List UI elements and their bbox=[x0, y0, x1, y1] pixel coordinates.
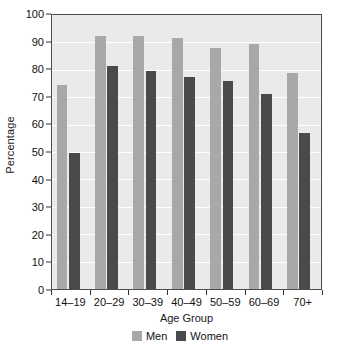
y-tick-label: 10 bbox=[32, 256, 44, 268]
x-tick-mark bbox=[51, 290, 52, 295]
bar-group bbox=[244, 15, 282, 289]
y-axis-title-label: Percentage bbox=[4, 116, 16, 173]
x-axis-tick-marks bbox=[51, 290, 322, 295]
x-tick-label: 60–69 bbox=[245, 296, 284, 312]
bar-women-14-19 bbox=[69, 153, 80, 289]
x-tick-mark bbox=[128, 290, 129, 295]
x-axis-title: Age Group bbox=[51, 312, 322, 324]
bar-women-20-29 bbox=[107, 66, 118, 289]
y-tick-label: 80 bbox=[32, 63, 44, 75]
legend-label: Men bbox=[146, 330, 167, 342]
legend-swatch-women bbox=[176, 331, 186, 341]
chart-legend: MenWomen bbox=[0, 330, 360, 342]
y-tick-label: 90 bbox=[32, 36, 44, 48]
x-tick-label: 40–49 bbox=[167, 296, 206, 312]
bar-men-60-69 bbox=[249, 44, 260, 289]
bar-group bbox=[129, 15, 167, 289]
x-tick-mark bbox=[283, 290, 284, 295]
legend-swatch-men bbox=[132, 331, 142, 341]
y-tick-label: 30 bbox=[32, 201, 44, 213]
x-tick-label: 30–39 bbox=[128, 296, 167, 312]
y-tick-label: 0 bbox=[38, 284, 44, 296]
bar-men-40-49 bbox=[172, 38, 183, 289]
x-tick-mark bbox=[245, 290, 246, 295]
bar-chart: Percentage 0102030405060708090100 14–192… bbox=[0, 0, 360, 347]
bar-women-30-39 bbox=[146, 71, 157, 289]
bar-group bbox=[167, 15, 205, 289]
legend-item-men[interactable]: Men bbox=[132, 330, 167, 342]
y-tick-label: 50 bbox=[32, 146, 44, 158]
y-tick-label: 20 bbox=[32, 229, 44, 241]
bars-layer bbox=[52, 15, 321, 289]
x-tick-mark bbox=[90, 290, 91, 295]
plot-area bbox=[51, 14, 322, 290]
x-tick-mark bbox=[322, 290, 323, 295]
x-tick-label: 14–19 bbox=[51, 296, 90, 312]
bar-women-50-59 bbox=[223, 81, 234, 289]
bar-men-70+ bbox=[287, 73, 298, 289]
y-tick-label: 40 bbox=[32, 174, 44, 186]
y-tick-label: 60 bbox=[32, 118, 44, 130]
x-tick-label: 50–59 bbox=[206, 296, 245, 312]
y-axis-tick-labels: 0102030405060708090100 bbox=[18, 14, 44, 290]
x-tick-mark bbox=[206, 290, 207, 295]
x-tick-label: 20–29 bbox=[90, 296, 129, 312]
y-tick-label: 100 bbox=[26, 8, 44, 20]
bar-group bbox=[283, 15, 321, 289]
bar-men-20-29 bbox=[95, 36, 106, 289]
bar-men-30-39 bbox=[133, 36, 144, 289]
legend-label: Women bbox=[190, 330, 228, 342]
x-tick-label: 70+ bbox=[283, 296, 322, 312]
x-tick-mark bbox=[167, 290, 168, 295]
y-tick-label: 70 bbox=[32, 91, 44, 103]
bar-group bbox=[90, 15, 128, 289]
x-axis-tick-labels: 14–1920–2930–3940–4950–5960–6970+ bbox=[51, 296, 322, 312]
bar-women-70+ bbox=[299, 133, 310, 289]
bar-men-14-19 bbox=[57, 85, 68, 289]
bar-women-40-49 bbox=[184, 77, 195, 289]
legend-item-women[interactable]: Women bbox=[176, 330, 228, 342]
bar-men-50-59 bbox=[210, 48, 221, 289]
y-axis-title: Percentage bbox=[2, 0, 18, 290]
bar-group bbox=[206, 15, 244, 289]
bar-women-60-69 bbox=[261, 94, 272, 289]
bar-group bbox=[52, 15, 90, 289]
